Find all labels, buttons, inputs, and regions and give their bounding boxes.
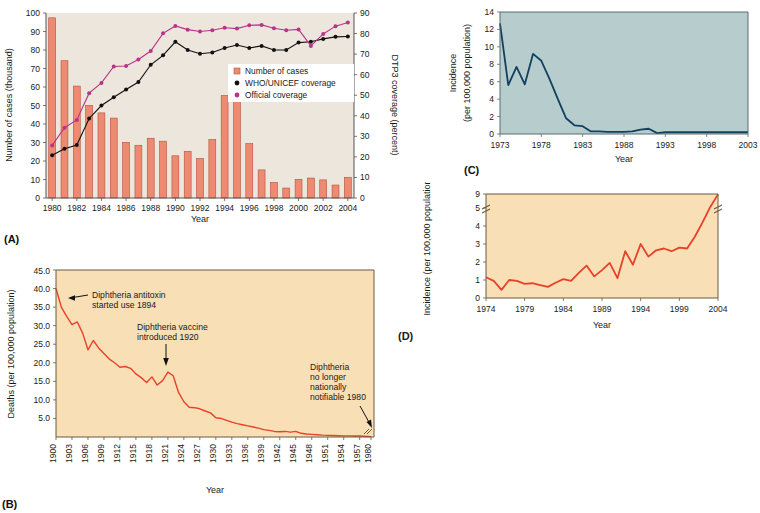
x-tick-label: 1998 xyxy=(697,140,716,150)
y-tick-label: 5.0 xyxy=(38,413,50,423)
annotation-text: introduced 1920 xyxy=(137,332,199,342)
data-point xyxy=(173,40,177,44)
x-tick-label: 1993 xyxy=(656,140,675,150)
x-tick-label: 1990 xyxy=(166,203,185,213)
y-tick-label: 10.0 xyxy=(33,395,50,405)
data-point xyxy=(161,53,165,57)
panel-c: 02468101214 1973197819831988199319982003… xyxy=(408,0,760,178)
panel-a-xlabel: Year xyxy=(191,214,209,224)
x-tick-label: 1900 xyxy=(48,444,58,463)
panel-c-ylabel: Incidence (per 100,000 population) xyxy=(448,24,472,122)
y-tick-label: 0 xyxy=(475,293,480,303)
x-tick-label: 1909 xyxy=(96,444,106,463)
data-point xyxy=(247,23,251,27)
data-point xyxy=(334,35,338,39)
data-point xyxy=(198,30,202,34)
data-point xyxy=(321,32,325,36)
x-tick-label: 1939 xyxy=(256,444,266,463)
y-tick-label: 10 xyxy=(485,42,495,52)
data-point xyxy=(210,28,214,32)
y-tick-label: 40 xyxy=(31,119,41,129)
x-tick-label: 1994 xyxy=(215,203,234,213)
data-point xyxy=(99,104,103,108)
data-point xyxy=(87,116,91,120)
x-tick-label: 1957 xyxy=(352,444,362,463)
y-axis-ticks: 0123459 xyxy=(475,189,486,303)
x-tick-label: 2000 xyxy=(289,203,308,213)
data-point xyxy=(297,41,301,45)
y-tick-label: 2 xyxy=(489,112,494,122)
x-tick-label: 1989 xyxy=(593,304,612,314)
data-point xyxy=(284,48,288,52)
y-tick-label: 0 xyxy=(360,193,365,203)
bar xyxy=(184,151,191,198)
x-tick-label: 1912 xyxy=(112,444,122,463)
panel-d-label: (D) xyxy=(398,330,413,342)
data-point xyxy=(235,27,239,31)
x-tick-label: 1973 xyxy=(491,140,510,150)
panel-b-chart: 45.05.010.015.020.025.030.035.040.0 1900… xyxy=(0,258,400,513)
data-point xyxy=(149,49,153,53)
y-tick-label: 40.0 xyxy=(33,284,50,294)
x-tick-label: 1942 xyxy=(272,444,282,463)
y-tick-label: 6 xyxy=(489,77,494,87)
panel-c-label: (C) xyxy=(464,164,480,176)
x-tick-label: 1984 xyxy=(554,304,573,314)
bar xyxy=(270,182,277,198)
bar xyxy=(209,140,216,198)
bar xyxy=(234,92,241,198)
y-tick-label: 70 xyxy=(31,64,41,74)
x-tick-label: 1915 xyxy=(128,444,138,463)
y-tick-label: 0 xyxy=(35,193,40,203)
panel-d-ylabel: Incidence (per 100,000 population) xyxy=(422,182,432,316)
panel-d-chart: 0123459 1974197919841989199419992004 Yea… xyxy=(408,182,760,332)
data-point xyxy=(136,57,140,61)
bar xyxy=(258,170,265,198)
panel-a-chart: 0102030405060708090100 01020304050607080… xyxy=(0,0,400,250)
data-point xyxy=(297,27,301,31)
x-tick-label: 1992 xyxy=(191,203,210,213)
legend-dot-icon xyxy=(235,93,240,98)
panel-c-chart: 02468101214 1973197819831988199319982003… xyxy=(408,0,760,178)
data-point xyxy=(136,80,140,84)
x-axis-ticks: 1974197919841989199419992004 xyxy=(477,298,728,314)
x-tick-label: 1979 xyxy=(515,304,534,314)
x-tick-label: 1980 xyxy=(363,444,373,463)
y-tick-label: 0 xyxy=(489,129,494,139)
data-point xyxy=(334,24,338,28)
plot-area-background xyxy=(500,12,748,134)
data-point xyxy=(50,143,54,147)
bar xyxy=(344,177,351,198)
data-point xyxy=(62,126,66,130)
panel-d-xlabel: Year xyxy=(593,320,611,330)
x-axis-ticks: 1900190319061909191219151918192119241927… xyxy=(48,437,373,463)
y-axis-ticks: 45.05.010.015.020.025.030.035.040.0 xyxy=(33,266,56,423)
x-tick-label: 1921 xyxy=(160,444,170,463)
annotation-text: notifiable 1980 xyxy=(310,392,366,402)
x-tick-label: 1988 xyxy=(141,203,160,213)
y-axis-left-ticks: 0102030405060708090100 xyxy=(26,8,46,203)
annotation-text: started use 1894 xyxy=(92,300,156,310)
bar xyxy=(160,141,167,198)
bar xyxy=(197,158,204,198)
bar xyxy=(98,113,105,198)
x-tick-label: 2004 xyxy=(338,203,357,213)
y-tick-label: 4 xyxy=(475,221,480,231)
data-point xyxy=(124,64,128,68)
x-tick-label: 1998 xyxy=(264,203,283,213)
data-point xyxy=(198,52,202,56)
y-tick-label: 60 xyxy=(31,82,41,92)
x-tick-label: 1951 xyxy=(320,444,330,463)
y-tick-label: 9 xyxy=(475,189,480,199)
x-tick-label: 1999 xyxy=(670,304,689,314)
bar xyxy=(73,86,80,198)
data-point xyxy=(284,28,288,32)
data-point xyxy=(62,147,66,151)
y-tick-label: 70 xyxy=(360,49,370,59)
x-tick-label: 2002 xyxy=(314,203,333,213)
y-tick-label: 80 xyxy=(360,29,370,39)
data-point xyxy=(309,44,313,48)
y-tick-label: 100 xyxy=(26,8,40,18)
y-tick-label: 20.0 xyxy=(33,358,50,368)
x-tick-label: 2003 xyxy=(739,140,758,150)
